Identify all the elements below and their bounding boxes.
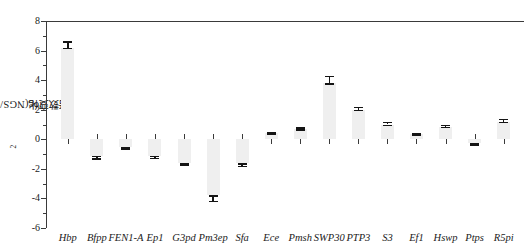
y-tick-label: 6	[35, 46, 40, 56]
error-bar-cap	[325, 83, 334, 85]
bar-chart: log2倍数变化(NGS/GS) 86420-2-4-6 HbpBfppFEN1…	[0, 0, 532, 245]
y-tick	[41, 139, 46, 140]
y-tick	[41, 51, 46, 52]
x-tick	[329, 139, 330, 144]
y-tick-minor	[43, 154, 46, 155]
bar	[352, 110, 365, 140]
error-bar-cap	[499, 119, 508, 121]
y-tick	[41, 80, 46, 81]
bar	[207, 139, 220, 195]
x-tick-label: Ef1	[409, 232, 424, 243]
x-tick	[68, 139, 69, 144]
x-tick-label: Sfa	[235, 232, 248, 243]
y-tick-minor	[43, 95, 46, 96]
error-bar-cap	[499, 122, 508, 124]
y-tick	[41, 228, 46, 229]
x-tick	[271, 139, 272, 144]
bar	[236, 139, 249, 163]
error-bar-cap	[180, 165, 189, 167]
x-tick-label: Ptps	[465, 232, 484, 243]
y-axis-title: log2倍数变化(NGS/GS)	[2, 0, 24, 210]
error-bar-cap	[92, 158, 101, 160]
x-tick-label: S3	[382, 232, 393, 243]
y-tick	[41, 169, 46, 170]
bar	[497, 122, 510, 140]
x-tick-label: R5pi	[494, 232, 514, 243]
error-bar-cap	[209, 201, 218, 203]
x-tick-label: Hbp	[59, 232, 77, 243]
error-bar-cap	[441, 127, 450, 129]
x-tick-label: Hswp	[434, 232, 458, 243]
bar	[381, 125, 394, 140]
bar	[61, 48, 74, 140]
y-tick-minor	[43, 65, 46, 66]
y-tick-label: -2	[32, 164, 40, 174]
error-bar-cap	[412, 134, 421, 136]
y-tick	[41, 198, 46, 199]
y-tick-label: 4	[35, 75, 40, 85]
bar	[90, 139, 103, 155]
x-tick	[358, 139, 359, 144]
x-tick-label: SWP30	[314, 232, 345, 243]
y-tick-minor	[43, 125, 46, 126]
error-bar-cap	[470, 145, 479, 147]
y-tick-label: 2	[35, 105, 40, 115]
x-tick-label: Bfpp	[87, 232, 107, 243]
error-bar-cap	[150, 158, 159, 160]
error-bar-cap	[121, 148, 130, 150]
y-axis-title-text: log2倍数变化(NGS/GS)	[0, 62, 33, 149]
error-bar-cap	[296, 129, 305, 131]
error-bar-cap	[238, 163, 247, 165]
error-bar-cap	[383, 125, 392, 127]
error-bar-cap	[238, 166, 247, 168]
x-tick	[416, 139, 417, 144]
y-tick-label: 8	[35, 16, 40, 26]
x-tick-label: G3pd	[172, 232, 195, 243]
bar	[323, 83, 336, 139]
bar	[439, 127, 452, 140]
error-bar-cap	[325, 76, 334, 78]
error-bar-cap	[209, 195, 218, 197]
y-tick-label: 0	[35, 134, 40, 144]
x-tick-label: Pmsh	[289, 232, 312, 243]
error-bar-cap	[63, 41, 72, 43]
x-tick-label: Ep1	[146, 232, 163, 243]
y-tick-label: -6	[32, 223, 40, 233]
y-tick-label: -4	[32, 193, 40, 203]
y-tick-minor	[43, 36, 46, 37]
x-tick-label: PTP3	[346, 232, 370, 243]
error-bar-cap	[92, 156, 101, 158]
error-bar-cap	[383, 122, 392, 124]
y-tick-minor	[43, 213, 46, 214]
error-bar-cap	[63, 48, 72, 50]
y-axis-line	[46, 21, 47, 228]
x-tick-label: Ece	[263, 232, 279, 243]
x-tick-label: Pm3ep	[198, 232, 227, 243]
bar	[148, 139, 161, 155]
x-tick	[300, 139, 301, 144]
x-tick	[387, 139, 388, 144]
error-bar-cap	[354, 110, 363, 112]
x-tick-label: FEN1-A	[108, 232, 143, 243]
bar	[119, 139, 132, 146]
x-tick	[504, 139, 505, 144]
x-axis-zero-line	[46, 21, 524, 22]
plot-area: 86420-2-4-6	[46, 21, 524, 228]
y-tick	[41, 21, 46, 22]
x-tick	[446, 139, 447, 144]
bar	[178, 139, 191, 163]
y-axis-title-subscript: 2	[9, 144, 18, 148]
error-bar-cap	[354, 107, 363, 109]
y-tick-minor	[43, 184, 46, 185]
y-tick	[41, 110, 46, 111]
error-bar-cap	[267, 133, 276, 135]
